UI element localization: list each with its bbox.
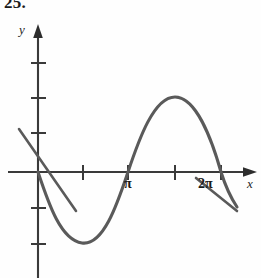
graph-plot <box>0 0 261 278</box>
x-tick-label-pi: π <box>124 176 132 192</box>
y-axis-arrowhead <box>33 24 43 38</box>
figure-container: 25. y x π 2π <box>0 0 261 278</box>
sine-curve <box>38 97 237 243</box>
x-tick-label-two-pi: 2π <box>198 176 213 192</box>
x-axis-label: x <box>247 176 253 192</box>
y-axis-label: y <box>19 22 25 38</box>
